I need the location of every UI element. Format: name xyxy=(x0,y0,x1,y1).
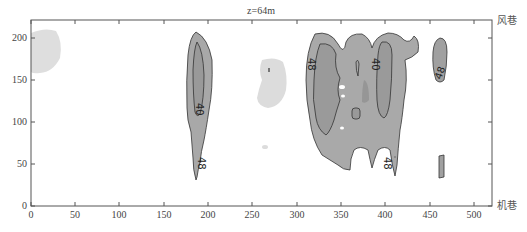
x-tick-label: 450 xyxy=(423,209,438,220)
hole-3 xyxy=(340,127,344,130)
x-tick-label: 50 xyxy=(70,209,80,220)
y-tick-label: 200 xyxy=(12,32,27,43)
x-tick-label: 0 xyxy=(29,209,34,220)
contour-label: 40 xyxy=(194,103,205,116)
contour-chart: z=64m 40 48 48 40 48 48 xyxy=(0,0,527,232)
light-region-x270 xyxy=(257,58,287,108)
contour-label: 48 xyxy=(196,157,207,170)
contour-label: 48 xyxy=(306,58,317,71)
plot-area: 40 48 48 40 48 48 xyxy=(31,29,447,180)
y-tick-label: 0 xyxy=(22,200,27,211)
hole-2 xyxy=(341,95,345,98)
x-tick-label: 100 xyxy=(112,209,127,220)
contour-small-box xyxy=(352,108,360,119)
x-tick-label: 350 xyxy=(334,209,349,220)
axes-frame xyxy=(31,20,492,206)
x-tick-label: 250 xyxy=(245,209,260,220)
contour-label: 40 xyxy=(370,58,381,71)
contour-region-small-x467 xyxy=(439,155,444,178)
x-tick-label: 150 xyxy=(157,209,172,220)
y-tick-label: 100 xyxy=(12,116,27,127)
right-label-bottom: 机巷 xyxy=(497,199,517,211)
chart-title: z=64m xyxy=(247,5,275,16)
x-tick-label: 400 xyxy=(378,209,393,220)
hole-1 xyxy=(339,85,345,89)
x-tick-label: 300 xyxy=(290,209,305,220)
light-region-top-left xyxy=(31,29,61,73)
contour-label: 48 xyxy=(382,157,393,170)
right-label-top: 风巷 xyxy=(497,15,517,26)
y-tick-labels: 0 50 100 150 200 xyxy=(12,32,27,211)
marker-x270 xyxy=(268,68,270,72)
small-dot xyxy=(394,156,395,157)
x-tick-labels: 0 50 100 150 200 250 300 350 400 450 500 xyxy=(29,209,482,220)
x-tick-label: 200 xyxy=(201,209,216,220)
x-tick-label: 500 xyxy=(467,209,482,220)
light-dot xyxy=(262,145,268,149)
y-tick-label: 50 xyxy=(17,158,27,169)
y-tick-label: 150 xyxy=(12,74,27,85)
